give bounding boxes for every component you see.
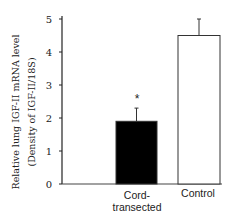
y-tick-label: 4 <box>46 47 52 58</box>
y-tick-label: 3 <box>46 80 52 91</box>
y-tick-label: 0 <box>46 179 52 190</box>
y-tick-label: 1 <box>46 146 52 157</box>
bar-chart: Relative lung IGF-II mRNA level (Density… <box>0 0 233 220</box>
category-label-cord-transected-line2: transected <box>112 201 161 213</box>
y-tick-label: 2 <box>46 113 52 124</box>
y-axis-label-line2: (Density of IGF-II/18S) <box>26 57 37 166</box>
category-label-control: Control <box>181 187 215 199</box>
bar-control <box>178 36 220 185</box>
x-axis-categories: Cord- transected Control <box>112 187 214 213</box>
category-label-cord-transected-line1: Cord- <box>124 189 151 201</box>
y-tick-label: 5 <box>46 14 52 25</box>
bars: * <box>116 19 220 184</box>
y-axis: 012345 <box>46 14 62 190</box>
significance-asterisk: * <box>135 92 140 106</box>
bar-cord-transected <box>116 121 157 184</box>
y-axis-label: Relative lung IGF-II mRNA level (Density… <box>10 34 37 189</box>
y-axis-label-line1: Relative lung IGF-II mRNA level <box>10 34 21 189</box>
